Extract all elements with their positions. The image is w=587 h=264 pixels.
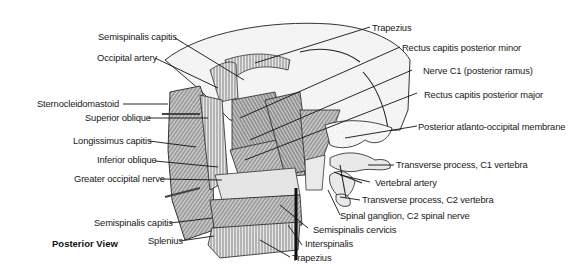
label-trapezius-bottom: Trapezius xyxy=(292,252,332,263)
label-interspinalis: Interspinalis xyxy=(305,238,354,249)
label-spinal-ganglion-c2: Spinal ganglion, C2 spinal nerve xyxy=(340,210,470,221)
label-semispinalis-capitis-bottom: Semispinalis capitis xyxy=(94,217,173,228)
lower-neck-muscles xyxy=(208,168,302,260)
label-trapezius-top: Trapezius xyxy=(372,22,412,33)
label-semispinalis-cervicis: Semispinalis cervicis xyxy=(313,224,397,235)
labels-left: Semispinalis capitis Occipital artery St… xyxy=(37,31,183,249)
label-semispinalis-capitis-top: Semispinalis capitis xyxy=(98,31,177,42)
label-sternocleidomastoid: Sternocleidomastoid xyxy=(37,98,119,109)
label-occipital-artery: Occipital artery xyxy=(97,52,158,63)
label-splenius: Splenius xyxy=(148,235,183,246)
label-longissimus-capitis: Longissimus capitis xyxy=(73,135,152,146)
label-inferior-oblique: Inferior oblique xyxy=(97,154,157,165)
label-rectus-capitis-posterior-major: Rectus capitis posterior major xyxy=(424,89,543,100)
label-superior-oblique: Superior oblique xyxy=(85,112,151,123)
label-posterior-atlanto-occipital-membrane: Posterior atlanto-occipital membrane xyxy=(418,121,565,132)
label-transverse-process-c2: Transverse process, C2 vertebra xyxy=(362,194,494,205)
label-transverse-process-c1: Transverse process, C1 vertebra xyxy=(396,159,528,170)
view-label: Posterior View xyxy=(52,238,118,249)
label-rectus-capitis-posterior-minor: Rectus capitis posterior minor xyxy=(402,42,521,53)
label-vertebral-artery: Vertebral artery xyxy=(375,177,437,188)
anatomy-diagram: Semispinalis capitis Occipital artery St… xyxy=(0,0,587,264)
label-nerve-c1: Nerve C1 (posterior ramus) xyxy=(423,65,533,76)
label-greater-occipital-nerve: Greater occipital nerve xyxy=(74,173,165,184)
